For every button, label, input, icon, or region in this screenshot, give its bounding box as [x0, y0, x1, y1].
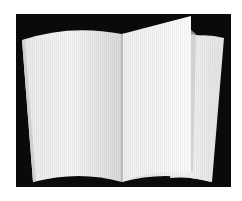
open-book-illustration — [0, 0, 242, 201]
